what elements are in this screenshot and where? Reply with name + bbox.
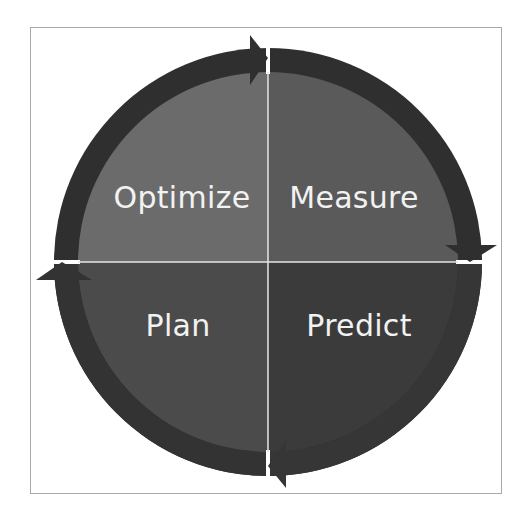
label-optimize: Optimize	[114, 180, 251, 215]
quadrant-optimize	[78, 72, 268, 262]
quadrant-predict	[268, 262, 458, 452]
label-plan: Plan	[145, 308, 210, 343]
label-predict: Predict	[306, 308, 411, 343]
cycle-diagram	[0, 0, 531, 515]
ring-gap-left	[50, 260, 80, 264]
quadrant-measure	[268, 72, 458, 262]
label-measure: Measure	[289, 180, 419, 215]
quadrant-plan	[78, 262, 268, 452]
